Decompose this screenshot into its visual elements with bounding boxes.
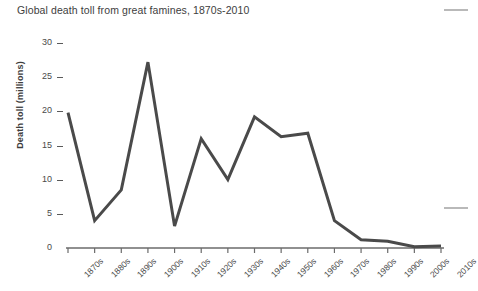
y-tick-mark xyxy=(57,146,63,147)
y-tick-mark xyxy=(57,214,63,215)
y-tick-mark xyxy=(57,43,63,44)
y-tick-mark xyxy=(57,180,63,181)
y-tick-label: 20 xyxy=(26,106,52,115)
y-tick-mark xyxy=(57,77,63,78)
y-tick-label: 5 xyxy=(26,209,52,218)
y-tick-label: 30 xyxy=(26,38,52,47)
y-tick-mark xyxy=(57,111,63,112)
page-edge-marker-top xyxy=(444,9,468,11)
y-tick-label: 25 xyxy=(26,72,52,81)
y-tick-label: 10 xyxy=(26,175,52,184)
y-tick-label: 15 xyxy=(26,141,52,150)
data-series-line xyxy=(68,62,441,247)
y-tick-label: 0 xyxy=(26,243,52,252)
page-edge-marker-bottom xyxy=(444,207,468,209)
